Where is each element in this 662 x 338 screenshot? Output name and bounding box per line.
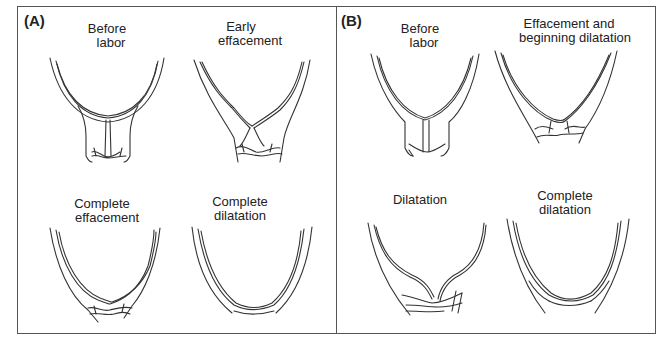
diagram-a-before-labor [48,56,168,166]
caption-b-dilatation: Dilatation [385,193,455,207]
caption-line1: Complete [200,195,280,209]
caption-line2: dilatation [200,209,280,223]
caption-line2: dilatation [525,203,605,217]
caption-a-early-effacement: Early effacement [205,20,295,48]
diagram-a-complete-dilatation [190,225,314,323]
caption-line1: Dilatation [385,193,455,207]
caption-line1: Before [385,22,455,36]
caption-a-before-labor: Before labor [72,22,142,50]
diagram-a-early-effacement [192,58,312,164]
caption-line1: Complete [525,189,605,203]
diagram-b-dilatation [366,221,488,319]
panel-b-label: (B) [341,12,362,29]
caption-a-complete-dilatation: Complete dilatation [200,195,280,223]
caption-a-complete-effacement: Complete effacement [62,197,152,225]
caption-line2: beginning dilatation [505,31,645,45]
caption-b-complete-dilatation: Complete dilatation [525,189,605,217]
diagram-a-complete-effacement [48,226,168,326]
panel-a-label: (A) [24,12,45,29]
caption-b-effacement-beginning-dilatation: Effacement and beginning dilatation [505,17,645,45]
caption-line1: Early [187,20,295,34]
caption-line1: Effacement and [493,17,645,31]
diagram-b-effacement-beginning-dilatation [493,49,619,147]
caption-line2: labor [72,36,142,50]
caption-line2: labor [385,36,455,50]
caption-b-before-labor: Before labor [385,22,455,50]
caption-line1: Complete [52,197,152,211]
diagram-b-complete-dilatation [505,217,631,317]
diagram-b-before-labor [369,52,481,160]
caption-line2: effacement [205,34,295,48]
caption-line1: Before [72,22,142,36]
caption-line2: effacement [62,211,152,225]
